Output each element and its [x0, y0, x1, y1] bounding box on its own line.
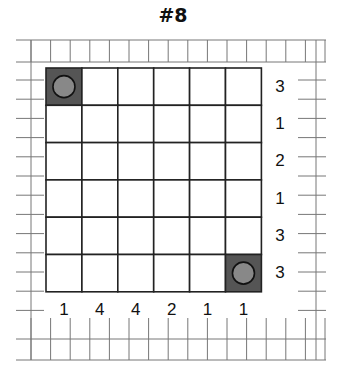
grid-cell[interactable]: [154, 217, 190, 254]
row-clue: 1: [268, 189, 292, 209]
grid-cell[interactable]: [154, 68, 190, 105]
grid-cell[interactable]: [154, 105, 190, 142]
grid-cell[interactable]: [190, 68, 226, 105]
grid-cell[interactable]: [226, 217, 262, 254]
grid-cell[interactable]: [82, 180, 118, 217]
grid-cell[interactable]: [154, 255, 190, 292]
grid-cell[interactable]: [82, 255, 118, 292]
grid-cell[interactable]: [118, 255, 154, 292]
column-clue: 4: [124, 300, 148, 320]
grid-cell[interactable]: [46, 180, 82, 217]
grid-cell[interactable]: [118, 143, 154, 180]
puzzle-board: [0, 0, 346, 379]
circle-marker: [232, 262, 254, 284]
grid-cell[interactable]: [118, 68, 154, 105]
grid-cell[interactable]: [46, 143, 82, 180]
grid-cell[interactable]: [46, 255, 82, 292]
column-clue: 4: [88, 300, 112, 320]
grid-cell[interactable]: [82, 217, 118, 254]
grid-cell[interactable]: [190, 105, 226, 142]
grid-cell[interactable]: [226, 68, 262, 105]
grid-cell[interactable]: [82, 105, 118, 142]
grid-cell[interactable]: [118, 217, 154, 254]
grid-cell[interactable]: [190, 143, 226, 180]
row-clue: 3: [268, 77, 292, 97]
grid-cell[interactable]: [226, 180, 262, 217]
grid-cell[interactable]: [226, 143, 262, 180]
row-clue: 2: [268, 151, 292, 171]
column-clue: 1: [52, 300, 76, 320]
row-clue: 1: [268, 114, 292, 134]
column-clue: 1: [231, 300, 255, 320]
row-clue: 3: [268, 263, 292, 283]
grid-cell[interactable]: [118, 105, 154, 142]
grid-cell[interactable]: [226, 105, 262, 142]
grid-cell[interactable]: [118, 180, 154, 217]
grid-cell[interactable]: [46, 105, 82, 142]
row-clue: 3: [268, 226, 292, 246]
grid-cell[interactable]: [82, 68, 118, 105]
grid-cell[interactable]: [82, 143, 118, 180]
grid-cell[interactable]: [190, 217, 226, 254]
circle-marker: [53, 76, 75, 98]
column-clue: 2: [160, 300, 184, 320]
grid-cell[interactable]: [190, 255, 226, 292]
grid-cell[interactable]: [154, 180, 190, 217]
column-clue: 1: [196, 300, 220, 320]
grid-cell[interactable]: [46, 217, 82, 254]
grid-cell[interactable]: [190, 180, 226, 217]
grid-cell[interactable]: [154, 143, 190, 180]
